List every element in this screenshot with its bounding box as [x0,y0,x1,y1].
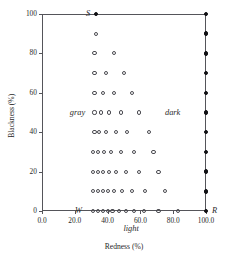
y-axis-tick [39,172,42,173]
data-point [101,209,105,213]
data-point [109,150,113,154]
top-spine-line [42,14,206,15]
data-point [92,110,96,114]
data-point [156,170,160,174]
data-point [94,32,98,36]
data-point [147,130,151,134]
x-axis-tick [42,211,43,214]
chart-annotation-dark: dark [165,108,180,116]
data-point [112,91,116,95]
data-point [130,91,134,95]
data-point [204,71,209,76]
data-point [101,91,105,95]
data-point [101,189,105,193]
data-point [106,209,110,213]
data-point [112,189,116,193]
y-axis-tick-label: 0 [33,207,37,214]
data-point [92,130,96,134]
y-axis-title: Blackness (%) [8,66,16,166]
data-point [137,170,141,174]
data-point [132,209,136,213]
data-point [97,130,101,134]
data-point [125,130,129,134]
data-point [163,189,167,193]
y-axis-tick [39,53,42,54]
data-point [99,110,103,114]
data-point [204,91,209,96]
y-axis-line [42,14,43,211]
data-point [137,110,141,114]
chart-annotation-s: S [86,10,90,18]
data-point [114,170,118,174]
y-axis-tick-label: 40 [30,128,37,135]
data-point [96,150,100,154]
data-point [130,189,134,193]
chart-annotation-w: W [75,207,82,215]
x-axis-tick-label: 100.0 [198,217,215,224]
data-point [92,71,96,75]
y-axis-tick-label: 60 [30,89,37,96]
data-point [96,189,100,193]
y-axis-tick [39,93,42,94]
data-point [119,150,123,154]
data-point [143,189,147,193]
data-point [94,12,99,17]
data-point [119,110,123,114]
y-axis-tick-label: 80 [30,50,37,57]
y-axis-tick-label: 20 [30,168,37,175]
data-point [112,51,116,55]
data-point [132,150,136,154]
data-point [204,189,209,194]
data-point [204,51,209,56]
chart-annotation-r: R [212,207,217,215]
data-point [204,169,209,174]
data-point [91,150,95,154]
data-point [142,209,146,213]
data-point [107,110,111,114]
data-point [122,71,126,75]
x-axis-tick-label: 0.0 [37,217,46,224]
data-point [107,170,111,174]
data-point [96,170,100,174]
data-point [151,150,155,154]
data-point [106,189,110,193]
scatter-chart-figure: Blackness (%) Redness (%) 0204060801000.… [0,0,252,263]
data-point [104,71,108,75]
data-point [204,209,209,214]
data-point [104,130,108,134]
data-point [204,130,209,135]
data-point [102,150,106,154]
data-point [101,170,105,174]
data-point [204,31,209,36]
y-axis-tick [39,132,42,133]
plot-area: 0204060801000.020.040.060.080.0100.0SWRg… [42,14,206,211]
data-point [156,209,160,213]
data-point [204,110,209,115]
data-point [91,170,95,174]
data-point [117,209,121,213]
data-point [92,51,96,55]
chart-annotation-light: light [123,225,138,233]
data-point [204,12,209,17]
x-axis-tick-label: 20.0 [68,217,81,224]
data-point [120,189,124,193]
data-point [124,170,128,174]
x-axis-tick [173,211,174,214]
data-point [91,209,95,213]
data-point [124,209,128,213]
data-point [96,209,100,213]
data-point [91,189,95,193]
x-axis-title: Redness (%) [42,243,206,251]
data-point [110,209,114,213]
x-axis-tick-label: 80.0 [167,217,180,224]
data-point [114,130,118,134]
y-axis-tick-label: 100 [26,10,37,17]
data-point [204,150,209,155]
data-point [92,91,96,95]
data-point [176,209,180,213]
y-axis-tick [39,14,42,15]
x-axis-tick-label: 40.0 [101,217,114,224]
chart-annotation-gray: gray [70,108,85,116]
